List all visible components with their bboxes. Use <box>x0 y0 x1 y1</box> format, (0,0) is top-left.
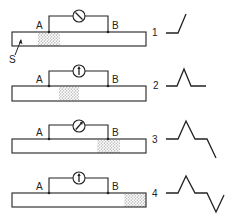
electrode-b-dot <box>107 192 110 195</box>
panel-number: 4 <box>152 188 158 199</box>
tissue-bar <box>12 32 146 46</box>
diagram-canvas: A B 1 S A B 2 A <box>0 0 233 219</box>
waveform-2 <box>166 69 206 86</box>
label-b: B <box>112 74 119 85</box>
panel-1: A B 1 S <box>9 10 186 65</box>
specimen-label: S <box>9 54 16 65</box>
waveform-1 <box>166 14 186 33</box>
tissue-bar <box>12 139 146 153</box>
electrode-a-dot <box>48 138 51 141</box>
electrode-a-dot <box>48 85 51 88</box>
galvanometer-icon <box>73 65 85 77</box>
label-b: B <box>112 127 119 138</box>
electrode-b-dot <box>107 31 110 34</box>
galvanometer-icon <box>73 172 85 184</box>
panel-number: 2 <box>153 80 159 91</box>
panel-4: A B 4 <box>12 172 224 212</box>
label-a: A <box>36 127 43 138</box>
stipple-region <box>59 87 79 100</box>
galvanometer-icon <box>73 10 85 22</box>
stipple-region <box>38 33 60 46</box>
panel-3: A B 3 <box>12 120 216 158</box>
electrode-a-dot <box>48 31 51 34</box>
waveform-3 <box>166 121 216 158</box>
panel-2: A B 2 <box>12 65 206 101</box>
panel-number: 3 <box>152 134 158 145</box>
label-a: A <box>36 74 43 85</box>
galvanometer-icon <box>73 120 85 132</box>
electrode-b-dot <box>107 85 110 88</box>
label-a: A <box>36 181 43 192</box>
stipple-region <box>97 140 120 153</box>
waveform-4 <box>166 176 224 212</box>
label-a: A <box>36 20 43 31</box>
electrode-a-dot <box>48 192 51 195</box>
stipple-region <box>124 194 146 207</box>
panel-number: 1 <box>152 27 158 38</box>
label-b: B <box>112 20 119 31</box>
electrode-b-dot <box>107 138 110 141</box>
label-b: B <box>112 181 119 192</box>
